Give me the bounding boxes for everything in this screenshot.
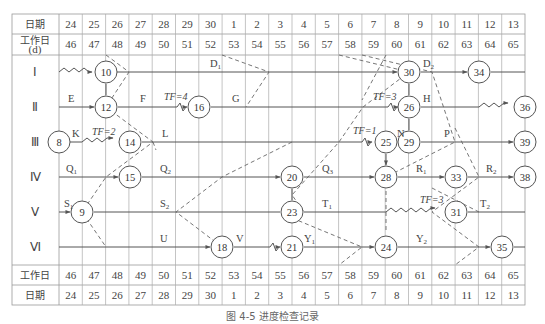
dates-cell: 2	[254, 289, 260, 301]
workdays-cell: 46	[65, 269, 77, 281]
workdays-cell: 48	[112, 38, 124, 50]
node-number: 35	[497, 242, 508, 253]
figure-caption: 图 4-5 进度检查记录	[0, 308, 545, 323]
dates-cell: 6	[348, 289, 354, 301]
workdays-cell: 58	[345, 38, 357, 50]
workdays-cell: 50	[158, 269, 170, 281]
event-node-16: 16	[188, 96, 210, 118]
dates-cell: 11	[461, 18, 472, 30]
row-label-2: Ⅱ	[32, 100, 38, 114]
node-number: 20	[287, 172, 298, 183]
dates-cell: 12	[485, 18, 496, 30]
event-node-38: 38	[514, 166, 536, 188]
event-node-39: 39	[514, 131, 536, 153]
label-q1: Q1	[66, 163, 78, 176]
workdays-cell: 49	[135, 269, 147, 281]
label-r1: R1	[416, 163, 427, 176]
dates-cell: 26	[112, 289, 124, 301]
workdays-cell: 47	[88, 38, 100, 50]
date-header-label: 日期	[25, 19, 45, 30]
event-node-8: 8	[48, 131, 70, 153]
node-number: 38	[520, 172, 531, 183]
column-gridlines	[82, 14, 501, 305]
workdays-cell: 64	[485, 269, 497, 281]
workdays-cell: 56	[298, 38, 310, 50]
node-number: 33	[451, 172, 462, 183]
workdays-cell: 51	[182, 269, 193, 281]
dates-cell: 5	[324, 18, 330, 30]
event-node-33: 33	[445, 166, 467, 188]
row-labels: Ⅰ Ⅱ Ⅲ Ⅳ Ⅴ Ⅵ	[30, 65, 41, 254]
label-s1: S1	[64, 198, 74, 211]
workdays-cell: 63	[461, 38, 473, 50]
dates-cell: 29	[182, 289, 194, 301]
node-number: 29	[404, 137, 415, 148]
event-node-18: 18	[211, 236, 233, 258]
workdays-cell: 60	[391, 269, 403, 281]
dates-cell: 30	[205, 18, 217, 30]
dates-cell: 10	[438, 18, 450, 30]
label-k: K	[72, 128, 80, 139]
event-node-9: 9	[71, 201, 93, 223]
event-node-34: 34	[468, 61, 490, 83]
workdays-cell: 57	[321, 38, 333, 50]
dates-cell: 28	[158, 18, 170, 30]
workdays-cell: 57	[321, 269, 333, 281]
label-y1: Y1	[304, 233, 316, 246]
dates-cell: 6	[348, 18, 354, 30]
dates-cell: 9	[417, 18, 423, 30]
workdays-cell: 49	[135, 38, 147, 50]
label-p: P	[444, 128, 450, 139]
dates-cell: 25	[88, 289, 100, 301]
node-number: 18	[217, 242, 228, 253]
workdays-cell: 62	[438, 38, 449, 50]
node-number: 9	[79, 207, 84, 218]
workdays-cell: 53	[228, 38, 240, 50]
label-d2: D2	[423, 58, 435, 71]
label-tf3b: TF=3	[420, 194, 443, 205]
dates-cell: 1	[231, 289, 237, 301]
event-node-12: 12	[95, 96, 117, 118]
dates-cell: 27	[135, 18, 147, 30]
workdays-cell: 55	[275, 38, 287, 50]
node-number: 24	[381, 242, 392, 253]
dates-cell: 3	[278, 18, 284, 30]
event-node-26: 26	[398, 96, 420, 118]
node-number: 25	[381, 137, 392, 148]
event-node-15: 15	[119, 166, 141, 188]
label-y2: Y2	[416, 233, 428, 246]
workdays-cell: 54	[252, 38, 264, 50]
label-g: G	[232, 93, 240, 104]
node-number: 28	[381, 172, 392, 183]
label-h: H	[423, 93, 431, 104]
event-node-20: 20	[281, 166, 303, 188]
dates-cell: 1	[231, 18, 237, 30]
dates-cell: 4	[301, 18, 307, 30]
workdays-cell: 60	[391, 38, 403, 50]
dates-cell: 8	[394, 18, 400, 30]
node-number: 12	[101, 102, 112, 113]
node-number: 16	[194, 102, 205, 113]
label-r2: R2	[486, 163, 497, 176]
network-schedule-diagram: 日期 工作日 (d) 工作日 (d) 日期 242526272829301234…	[0, 0, 545, 324]
event-node-24: 24	[375, 236, 397, 258]
dates-cell: 27	[135, 289, 147, 301]
label-l: L	[162, 128, 168, 139]
node-number: 31	[451, 207, 462, 218]
workdays-cell: 54	[252, 269, 264, 281]
dates-cell: 12	[485, 289, 496, 301]
workdays-cell: 46	[65, 38, 77, 50]
dates-cell: 30	[205, 289, 217, 301]
label-s2: S2	[160, 198, 170, 211]
event-node-14: 14	[119, 131, 141, 153]
node-number: 23	[287, 207, 298, 218]
dates-cell: 26	[112, 18, 124, 30]
node-number: 39	[520, 137, 531, 148]
label-t2: T2	[480, 198, 490, 211]
label-e: E	[68, 93, 74, 104]
dates-cell: 10	[438, 289, 450, 301]
dates-cell: 24	[65, 289, 77, 301]
label-f: F	[140, 93, 146, 104]
event-node-31: 31	[445, 201, 467, 223]
workdays-cell: 50	[158, 38, 170, 50]
